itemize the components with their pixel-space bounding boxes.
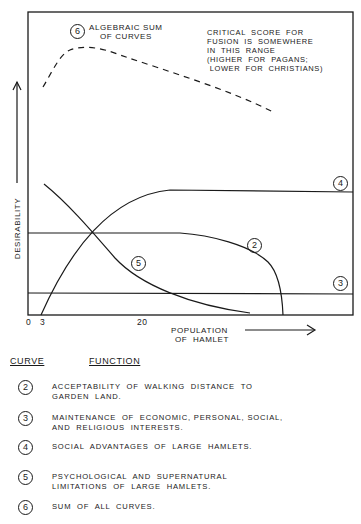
curve-6-label-line1: ALGEBRAIC SUM [89,23,163,32]
curve-3 [28,293,353,294]
curve-4 [41,190,353,315]
note-line: LOWER FOR CHRISTIANS) [207,64,323,73]
x-tick-3: 3 [40,318,45,327]
legend-marker: 5 [18,470,33,485]
curve-6-label-line2: OF CURVES [100,32,152,41]
curve-5-marker: 5 [131,256,146,271]
x-tick-20: 20 [137,318,148,327]
x-tick-0: 0 [26,318,31,327]
legend-text: ACCEPTABILITY OF WALKING DISTANCE TO GAR… [52,382,253,401]
y-axis-label: DESIRABILITY [13,198,22,259]
legend-text: SOCIAL ADVANTAGES OF LARGE HAMLETS. [52,442,252,452]
legend-marker: 2 [18,380,33,395]
legend-marker: 4 [18,440,33,455]
note-line: IN THIS RANGE [207,46,323,55]
note-line: FUSION IS SOMEWHERE [207,37,323,46]
legend-text: MAINTENANCE OF ECONOMIC, PERSONAL, SOCIA… [52,413,283,432]
curve-2 [28,233,283,315]
x-axis-label-line2: OF HAMLET [175,335,229,344]
curve-6-marker: 6 [70,24,85,39]
curve-3-marker: 3 [333,276,348,291]
legend-item: 5 PSYCHOLOGICAL AND SUPERNATURAL LIMITAT… [18,470,227,491]
legend-header-function: FUNCTION [89,356,140,366]
critical-score-note: CRITICAL SCORE FOR FUSION IS SOMEWHERE I… [207,28,323,73]
note-line: CRITICAL SCORE FOR [207,28,323,37]
legend-marker: 6 [18,500,33,515]
legend-text: PSYCHOLOGICAL AND SUPERNATURAL LIMITATIO… [52,472,227,491]
legend-header-curve: CURVE [10,356,44,366]
x-axis-label-line1: POPULATION [171,326,228,335]
curve-2-marker: 2 [247,238,262,253]
curve-4-marker: 4 [333,176,348,191]
legend-item: 4 SOCIAL ADVANTAGES OF LARGE HAMLETS. [18,440,252,455]
legend-marker: 3 [18,411,33,426]
legend-item: 3 MAINTENANCE OF ECONOMIC, PERSONAL, SOC… [18,411,283,432]
note-line: (HIGHER FOR PAGANS; [207,55,323,64]
legend-text: SUM OF ALL CURVES. [52,502,155,512]
legend-item: 2 ACCEPTABILITY OF WALKING DISTANCE TO G… [18,380,253,401]
legend-item: 6 SUM OF ALL CURVES. [18,500,155,515]
